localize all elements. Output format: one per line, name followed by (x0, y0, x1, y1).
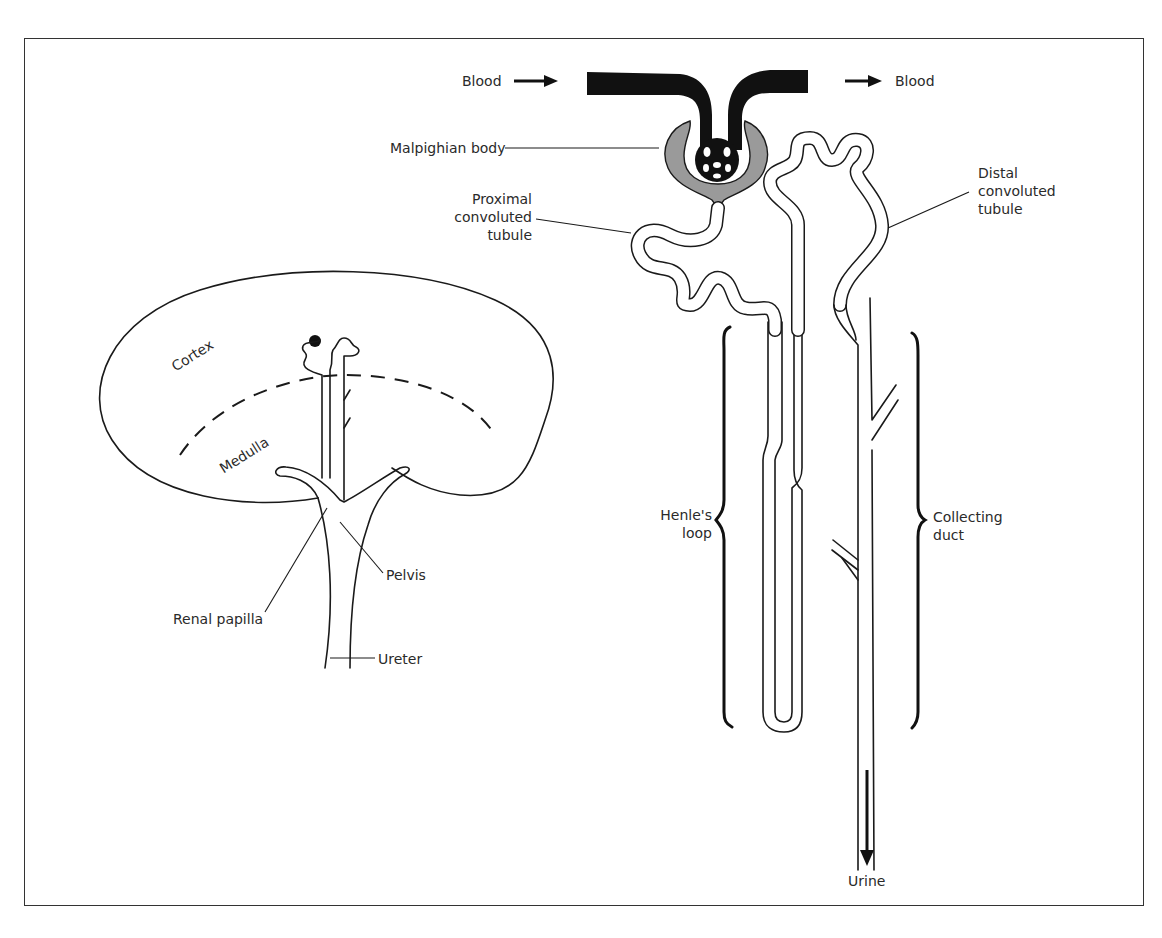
label-malpighian-body: Malpighian body (390, 139, 506, 157)
label-collecting-line2: duct (933, 526, 1003, 544)
label-blood-out: Blood (895, 72, 935, 90)
urine-arrow-icon (860, 770, 874, 866)
label-distal-line1: Distal (978, 164, 1056, 182)
label-distal-convoluted-tubule: Distal convoluted tubule (978, 164, 1056, 218)
label-renal-papilla: Renal papilla (173, 610, 263, 628)
label-collecting-line1: Collecting (933, 508, 1003, 526)
kidney-outline (100, 271, 554, 502)
label-distal-line2: convoluted (978, 182, 1056, 200)
distal-convoluted-tubule (770, 138, 882, 870)
malpighian-body (665, 121, 768, 208)
label-henle-line1: Henle's (640, 506, 712, 524)
kidney-nephron-diagram (0, 0, 1162, 938)
collecting-duct (832, 298, 898, 870)
label-collecting-duct: Collecting duct (933, 508, 1003, 544)
cortex-medulla-boundary (180, 375, 495, 455)
pelvis-leader (340, 522, 383, 573)
collecting-duct-brace (912, 333, 925, 728)
distal-tubule-leader (888, 192, 969, 228)
henle-loop (763, 322, 802, 732)
label-blood-in: Blood (462, 72, 502, 90)
label-proximal-line1: Proximal (440, 190, 532, 208)
label-urine: Urine (848, 872, 885, 890)
blood-in-arrow-icon (514, 75, 558, 87)
proximal-tubule-leader (536, 219, 631, 233)
blood-out-arrow-icon (845, 75, 882, 87)
label-proximal-convoluted-tubule: Proximal convoluted tubule (440, 190, 532, 244)
label-ureter: Ureter (378, 650, 422, 668)
label-proximal-line3: tubule (440, 226, 532, 244)
label-pelvis: Pelvis (386, 566, 426, 584)
label-henle-line2: loop (640, 524, 712, 542)
blood-vessel (587, 70, 808, 150)
label-henle-loop: Henle's loop (640, 506, 712, 542)
label-proximal-line2: convoluted (440, 208, 532, 226)
renal-papilla-leader (265, 508, 327, 612)
label-distal-line3: tubule (978, 200, 1056, 218)
proximal-convoluted-tubule (638, 208, 775, 330)
henle-loop-brace (716, 327, 732, 727)
